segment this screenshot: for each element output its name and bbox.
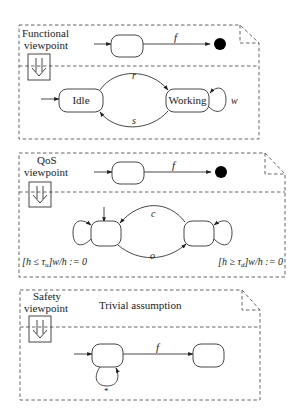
- state-box: [193, 344, 224, 367]
- safety-viewpoint-panel: Safety viewpoint Trivial assumption f *: [20, 290, 260, 400]
- panel-title-line1: QoS: [37, 154, 57, 166]
- functional-viewpoint-panel: Functional viewpoint f Idle Working r s …: [19, 25, 259, 139]
- double-down-arrow-icon: [28, 54, 50, 80]
- transition-label: f: [174, 31, 179, 43]
- state-box: [92, 344, 123, 367]
- panel-title-line2: viewpoint: [24, 39, 68, 51]
- state-label: Working: [168, 94, 207, 106]
- double-down-arrow-icon: [29, 316, 51, 342]
- self-loop-right: [214, 221, 232, 245]
- state-box: [111, 35, 143, 57]
- panel-title-line1: Functional: [22, 27, 69, 39]
- state-right: [184, 221, 214, 246]
- transition-w: [209, 88, 226, 111]
- left-guard: [h ≤ τu]w/h := 0: [22, 256, 87, 269]
- transition-label: r: [132, 70, 136, 81]
- self-loop: [96, 367, 118, 386]
- final-state: [215, 166, 227, 178]
- qos-viewpoint-panel: QoS viewpoint f c o [h ≤ τu]w/h := 0 [h …: [19, 153, 285, 277]
- transition-label: *: [104, 386, 109, 396]
- transition-label: f: [156, 341, 161, 353]
- state-label: Idle: [72, 94, 89, 106]
- right-guard: [h ≥ τd]w/h := 0: [218, 256, 283, 269]
- self-loop-left: [73, 221, 91, 245]
- panel-title-line1: Safety: [33, 290, 62, 302]
- transition-label: o: [150, 250, 155, 261]
- panel-title-line2: viewpoint: [24, 166, 68, 178]
- state-left: [91, 221, 121, 246]
- state-box: [112, 162, 144, 184]
- viewpoint-diagram: Functional viewpoint f Idle Working r s …: [0, 0, 301, 416]
- transition-label: c: [151, 208, 156, 219]
- transition-label: s: [132, 115, 136, 126]
- panel-title-line2: viewpoint: [24, 302, 68, 314]
- double-down-arrow-icon: [29, 182, 51, 207]
- transition-label: w: [231, 95, 238, 106]
- transition-label: f: [172, 159, 177, 171]
- panel-caption: Trivial assumption: [99, 299, 182, 311]
- final-state: [214, 38, 226, 50]
